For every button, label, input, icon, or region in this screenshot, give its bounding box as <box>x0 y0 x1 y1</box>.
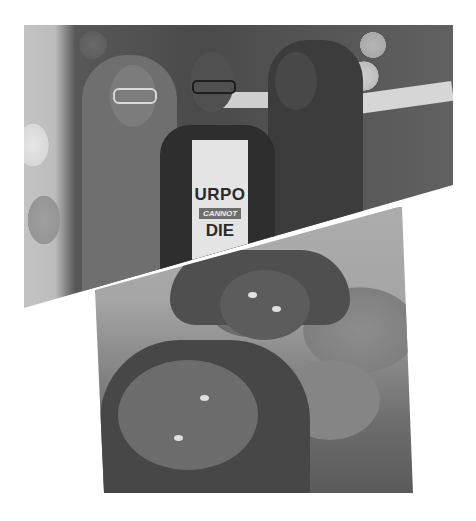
eye <box>200 395 209 401</box>
eye <box>174 435 183 441</box>
glasses <box>113 88 157 104</box>
shirt-text-line1: URPO <box>194 185 245 205</box>
shirt-text-line3: DIE <box>206 221 234 241</box>
shirt-print: URPO CANNOT DIE <box>192 140 248 260</box>
party-banner-right <box>349 81 454 115</box>
glasses <box>192 80 236 94</box>
shirt-text-line2: CANNOT <box>199 208 241 219</box>
eye <box>272 306 281 312</box>
person-right-face <box>275 52 317 110</box>
eye <box>248 292 257 298</box>
face-bottom <box>118 360 258 470</box>
face-top <box>220 270 310 340</box>
